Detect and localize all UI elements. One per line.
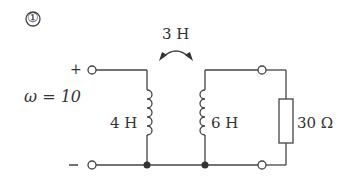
junction-left xyxy=(144,162,151,169)
arrowhead-left-icon xyxy=(159,52,167,61)
problem-number: ① xyxy=(26,11,40,24)
arrowhead-right-icon xyxy=(185,52,193,61)
inductor-6h-icon xyxy=(200,90,205,135)
mutual-inductance-label: 3 H xyxy=(162,27,189,42)
terminal-top-left xyxy=(88,66,96,74)
resistor-label: 30 Ω xyxy=(297,116,333,131)
junction-right xyxy=(202,162,209,169)
frequency-label: ω = 10 xyxy=(24,89,81,105)
inductor-6h-label: 6 H xyxy=(211,116,238,131)
resistor-30ohm-icon xyxy=(279,99,293,143)
terminal-bottom-left xyxy=(88,161,96,169)
plus-label: + xyxy=(70,62,82,76)
terminal-bottom-right xyxy=(258,161,266,169)
mutual-coupling-arrow-icon xyxy=(163,51,189,57)
terminal-top-right xyxy=(258,66,266,74)
inductor-4h-icon xyxy=(147,90,152,135)
inductor-4h-label: 4 H xyxy=(110,116,137,131)
